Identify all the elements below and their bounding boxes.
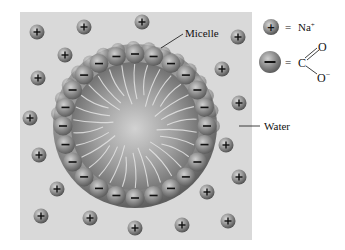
plus-icon bbox=[37, 75, 38, 82]
carboxylate-head bbox=[107, 47, 126, 66]
plus-icon bbox=[40, 213, 41, 220]
plus-icon bbox=[89, 215, 90, 222]
legend-equals: = bbox=[285, 56, 291, 68]
plus-icon bbox=[238, 100, 239, 107]
plus-icon bbox=[38, 152, 39, 159]
carboxylate-head bbox=[126, 189, 145, 208]
sodium-ion bbox=[30, 25, 45, 40]
minus-icon bbox=[201, 107, 209, 109]
carboxylate-head bbox=[75, 167, 94, 186]
carboxylate-head bbox=[54, 117, 73, 136]
minus-icon bbox=[59, 125, 67, 127]
sodium-ion bbox=[135, 15, 150, 30]
minus-icon bbox=[131, 53, 139, 55]
plus-icon bbox=[227, 218, 228, 225]
sodium-ion bbox=[232, 96, 247, 111]
minus-icon bbox=[69, 89, 77, 91]
carboxylate-head bbox=[195, 98, 214, 117]
plus-icon bbox=[206, 189, 207, 196]
carboxylate-head bbox=[63, 153, 82, 172]
minus-icon bbox=[112, 195, 120, 197]
sodium-ion bbox=[232, 170, 247, 185]
sodium-ion bbox=[215, 62, 230, 77]
carboxylate-head bbox=[198, 117, 217, 136]
plus-icon bbox=[181, 222, 182, 229]
carboxylate-head bbox=[56, 98, 75, 117]
carboxylate-head bbox=[188, 81, 207, 100]
sodium-ion bbox=[23, 111, 38, 126]
minus-icon bbox=[95, 63, 103, 65]
carboxylate-head bbox=[90, 179, 109, 198]
plus-icon bbox=[238, 174, 239, 181]
legend-carboxylate: = C O O− bbox=[259, 40, 331, 85]
micelle-diagram: Micelle Water + = Na+ = C O O− bbox=[0, 0, 345, 250]
carboxylate-head bbox=[144, 186, 163, 205]
minus-icon bbox=[167, 63, 175, 65]
sodium-ion bbox=[50, 182, 65, 197]
carboxylate-head bbox=[162, 54, 181, 73]
minus-icon bbox=[62, 107, 70, 109]
minus-icon bbox=[80, 176, 88, 178]
sodium-ion bbox=[83, 211, 98, 226]
plus-sign: + bbox=[267, 22, 275, 33]
plus-icon bbox=[56, 186, 57, 193]
plus-icon bbox=[36, 29, 37, 36]
single-bond-line bbox=[306, 66, 317, 74]
carboxylate-head bbox=[75, 66, 94, 85]
sodium-ion bbox=[32, 148, 47, 163]
minus-sign bbox=[265, 61, 276, 63]
plus-icon bbox=[237, 34, 238, 41]
minus-icon bbox=[182, 74, 190, 76]
minus-icon bbox=[95, 188, 103, 190]
sodium-ion bbox=[128, 221, 143, 236]
carboxylate-head bbox=[63, 81, 82, 100]
micelle-label: Micelle bbox=[185, 27, 219, 39]
plus-icon bbox=[141, 19, 142, 26]
plus-icon bbox=[225, 142, 226, 149]
sodium-ion bbox=[175, 218, 190, 233]
minus-icon bbox=[193, 161, 201, 163]
carboxylate-head bbox=[126, 45, 145, 64]
carbon-atom: C bbox=[298, 56, 306, 70]
sodium-ion bbox=[200, 185, 215, 200]
plus-icon bbox=[134, 225, 135, 232]
plus-icon bbox=[83, 24, 84, 31]
carboxylate-head bbox=[90, 54, 109, 73]
minus-icon bbox=[80, 74, 88, 76]
carboxylate-head bbox=[195, 135, 214, 154]
minus-icon bbox=[182, 176, 190, 178]
plus-icon bbox=[64, 52, 65, 59]
carboxylate-head bbox=[144, 47, 163, 66]
oxygen-single: O− bbox=[317, 70, 331, 85]
legend: + = Na+ = C O O− bbox=[259, 19, 331, 85]
minus-icon bbox=[203, 125, 211, 127]
plus-icon bbox=[221, 66, 222, 73]
sodium-ion bbox=[231, 30, 246, 45]
minus-icon bbox=[193, 89, 201, 91]
sodium-ion bbox=[58, 48, 73, 63]
minus-icon bbox=[112, 56, 120, 58]
sodium-ion bbox=[219, 138, 234, 153]
minus-icon bbox=[69, 161, 77, 163]
carboxylate-head bbox=[162, 179, 181, 198]
carboxylate-head bbox=[56, 135, 75, 154]
sodium-ion bbox=[77, 20, 92, 35]
plus-icon bbox=[29, 115, 30, 122]
sodium-ion bbox=[31, 71, 46, 86]
legend-equals: = bbox=[285, 21, 291, 33]
carboxylate-head bbox=[176, 167, 195, 186]
carboxylate-head bbox=[107, 186, 126, 205]
minus-icon bbox=[150, 56, 158, 58]
carboxylate-head bbox=[188, 153, 207, 172]
minus-icon bbox=[150, 195, 158, 197]
legend-sodium-text: Na+ bbox=[298, 21, 315, 33]
minus-icon bbox=[62, 144, 70, 146]
carboxylate-head bbox=[176, 66, 195, 85]
oxygen-double: O bbox=[318, 40, 327, 54]
sodium-ion bbox=[221, 214, 236, 229]
minus-icon bbox=[131, 197, 139, 199]
minus-icon bbox=[201, 144, 209, 146]
sodium-ion bbox=[34, 209, 49, 224]
minus-icon bbox=[167, 188, 175, 190]
water-label: Water bbox=[264, 120, 290, 132]
